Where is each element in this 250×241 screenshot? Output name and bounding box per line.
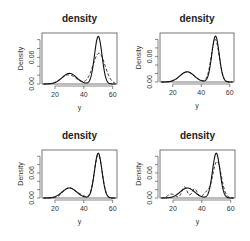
x-tick-label: 40 — [80, 205, 88, 212]
y-axis-label: Density — [17, 46, 25, 70]
y-tick-label: 0.00 — [146, 191, 153, 205]
true-density-curve — [161, 153, 233, 198]
true-density-curve — [161, 36, 232, 82]
x-tick-label: 40 — [197, 89, 205, 96]
x-tick-label: 20 — [169, 89, 177, 96]
x-axis: 204060y — [51, 200, 117, 226]
chart-title: density — [62, 13, 97, 24]
x-axis-label: y — [78, 104, 82, 112]
y-tick-label: 0.00 — [146, 75, 153, 89]
chart-title: density — [62, 130, 97, 141]
estimate-density-curve — [43, 155, 115, 198]
x-axis-label: y — [78, 218, 82, 226]
x-tick-label: 20 — [51, 91, 59, 98]
y-axis: 0.000.06Density — [135, 39, 158, 88]
y-axis-label: Density — [135, 45, 143, 69]
panel-top-right: density204060y0.000.06Density — [135, 13, 234, 110]
x-tick-label: 20 — [51, 205, 59, 212]
panel-top-left: density204060y0.000.06Density — [17, 13, 117, 112]
x-axis: 204060y — [169, 84, 234, 110]
y-tick-label: 0.06 — [28, 166, 35, 180]
estimate-density-curve — [161, 161, 233, 198]
chart-title: density — [180, 130, 215, 141]
y-tick-label: 0.06 — [146, 166, 153, 180]
x-tick-label: 40 — [80, 91, 88, 98]
y-tick-label: 0.06 — [28, 50, 35, 64]
x-axis-label: y — [196, 218, 200, 226]
true-density-curve — [43, 153, 115, 198]
x-tick-label: 60 — [227, 205, 235, 212]
x-tick-label: 60 — [226, 89, 234, 96]
y-axis-label: Density — [135, 162, 143, 186]
figure-2x2-density-plots: density204060y0.000.06Density density204… — [0, 0, 250, 241]
x-tick-label: 40 — [198, 205, 206, 212]
y-tick-label: 0.00 — [28, 191, 35, 205]
x-tick-label: 60 — [109, 91, 117, 98]
estimate-density-curve — [161, 40, 232, 83]
y-tick-label: 0.00 — [28, 77, 35, 91]
y-tick-label: 0.06 — [146, 50, 153, 64]
y-axis-label: Density — [17, 162, 25, 186]
x-axis: 204060y — [51, 86, 117, 112]
y-axis: 0.000.06Density — [135, 156, 158, 205]
y-axis: 0.000.06Density — [17, 40, 40, 91]
x-tick-label: 60 — [109, 205, 117, 212]
x-axis: 204060y — [169, 200, 235, 226]
x-tick-label: 20 — [169, 205, 177, 212]
x-axis-label: y — [195, 102, 199, 110]
chart-title: density — [179, 13, 214, 24]
true-density-curve — [43, 36, 115, 84]
panel-bottom-left: density204060y0.000.06Density — [17, 130, 117, 226]
panel-bottom-right: density204060y0.000.06Density — [135, 130, 235, 226]
y-axis: 0.000.06Density — [17, 156, 40, 205]
